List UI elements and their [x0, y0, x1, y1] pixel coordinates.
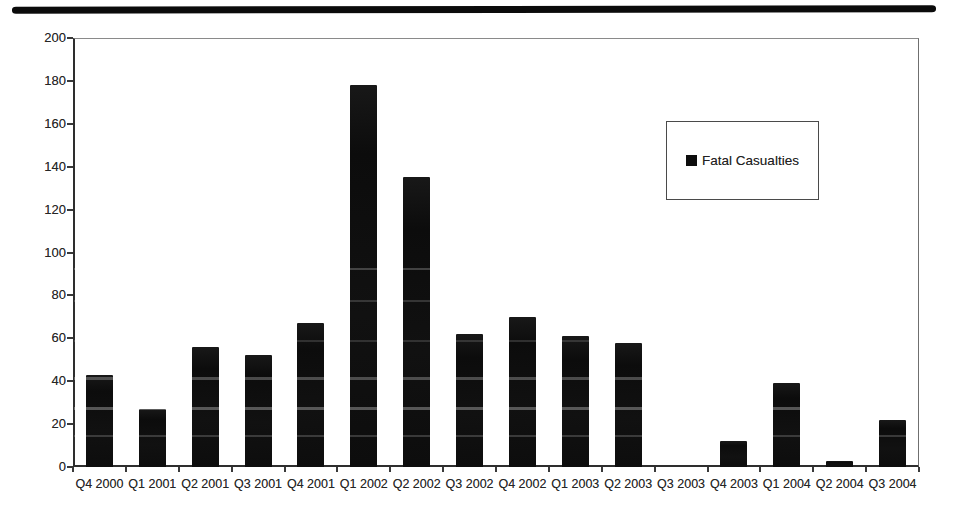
x-axis-tick: [865, 467, 867, 472]
y-axis-label: 120: [26, 203, 66, 217]
y-axis-tick: [67, 166, 73, 168]
legend-label: Fatal Casualties: [702, 153, 799, 168]
x-axis-label: Q3 2004: [862, 477, 923, 491]
y-axis-label: 180: [26, 74, 66, 88]
bar-q4-2000: [86, 375, 113, 467]
x-axis-tick: [442, 467, 444, 472]
y-axis-label: 160: [26, 117, 66, 131]
bar-q2-2004: [826, 461, 853, 467]
x-axis-label: Q3 2002: [439, 477, 500, 491]
y-axis-label: 20: [26, 417, 66, 431]
x-axis-tick: [812, 467, 814, 472]
bar-q2-2001: [192, 347, 219, 467]
x-axis-tick: [336, 467, 338, 472]
bar-q3-2002: [456, 334, 483, 467]
scan-artifact-bar: [12, 5, 936, 13]
y-axis-tick: [67, 294, 73, 296]
y-axis-tick: [67, 37, 73, 39]
bar-q3-2004: [879, 420, 906, 467]
x-axis-label: Q1 2003: [545, 477, 606, 491]
x-axis-label: Q4 2000: [69, 477, 130, 491]
x-axis-tick: [178, 467, 180, 472]
x-axis-label: Q1 2002: [333, 477, 394, 491]
bar-q4-2003: [720, 441, 747, 467]
bar-q4-2002: [509, 317, 536, 467]
x-axis-label: Q2 2004: [809, 477, 870, 491]
x-axis-label: Q2 2003: [598, 477, 659, 491]
legend-box: Fatal Casualties: [666, 121, 819, 200]
x-axis-label: Q1 2004: [756, 477, 817, 491]
bar-q4-2001: [297, 323, 324, 467]
x-axis-tick: [231, 467, 233, 472]
x-axis-tick: [654, 467, 656, 472]
x-axis-tick: [918, 467, 920, 472]
y-axis-tick: [67, 209, 73, 211]
x-axis-tick: [707, 467, 709, 472]
x-axis-tick: [284, 467, 286, 472]
x-axis-tick: [759, 467, 761, 472]
x-axis-label: Q2 2002: [386, 477, 447, 491]
x-axis-label: Q3 2003: [651, 477, 712, 491]
y-axis-tick: [67, 337, 73, 339]
x-axis-tick: [72, 467, 74, 472]
bar-q2-2003: [615, 343, 642, 467]
x-axis-label: Q2 2001: [175, 477, 236, 491]
y-axis-label: 0: [26, 460, 66, 474]
x-axis-tick: [548, 467, 550, 472]
x-axis-label: Q3 2001: [228, 477, 289, 491]
x-axis-label: Q4 2001: [281, 477, 342, 491]
x-axis-tick: [495, 467, 497, 472]
legend-marker-icon: [686, 155, 697, 166]
y-axis-label: 40: [26, 374, 66, 388]
bar-q3-2001: [245, 355, 272, 467]
y-axis-tick: [67, 80, 73, 82]
x-axis-tick: [389, 467, 391, 472]
bar-q1-2004: [773, 383, 800, 467]
bar-q1-2003: [562, 336, 589, 467]
y-axis-tick: [67, 423, 73, 425]
y-axis-tick: [67, 380, 73, 382]
bar-q1-2001: [139, 409, 166, 467]
x-axis-label: Q4 2002: [492, 477, 553, 491]
y-axis-label: 100: [26, 246, 66, 260]
y-axis-label: 140: [26, 160, 66, 174]
y-axis-label: 60: [26, 331, 66, 345]
x-axis-label: Q1 2001: [122, 477, 183, 491]
y-axis-label: 80: [26, 288, 66, 302]
x-axis-label: Q4 2003: [704, 477, 765, 491]
x-axis-tick: [125, 467, 127, 472]
y-axis-label: 200: [26, 31, 66, 45]
y-axis-tick: [67, 252, 73, 254]
x-axis-tick: [601, 467, 603, 472]
bar-q1-2002: [350, 85, 377, 467]
scanned-page: 020406080100120140160180200Q4 2000Q1 200…: [0, 0, 967, 512]
y-axis-tick: [67, 123, 73, 125]
bar-q2-2002: [403, 177, 430, 467]
